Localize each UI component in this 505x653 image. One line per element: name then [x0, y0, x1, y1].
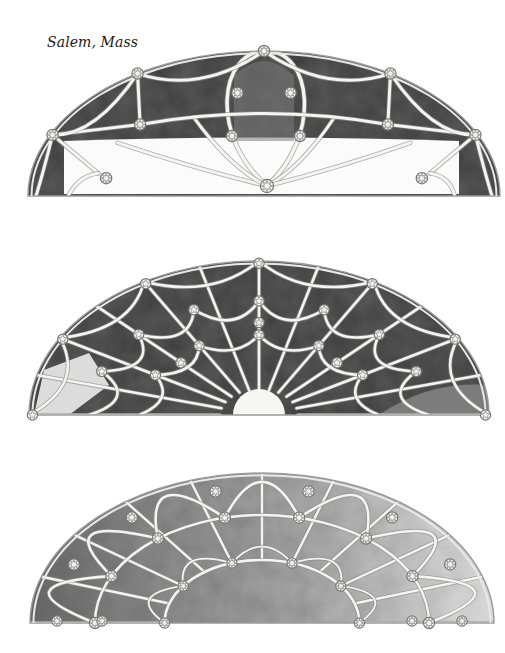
fanlight-middle — [24, 258, 493, 421]
fanlight-illustrations — [0, 0, 505, 653]
fanlight-bottom — [25, 470, 498, 629]
fanlight-top — [28, 45, 500, 196]
